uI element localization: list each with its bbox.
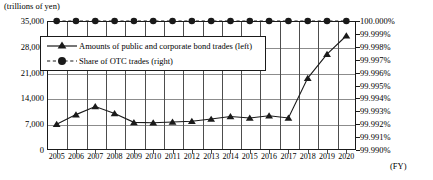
right-axis-tick-mark — [356, 60, 360, 61]
left-axis-tick-label: 35,000 — [21, 17, 44, 26]
chart-legend: Amounts of public and corporate bond tra… — [40, 36, 266, 71]
gridline-horizontal — [48, 99, 355, 100]
left-axis-tick-label: 14,000 — [21, 94, 44, 103]
right-axis-tick-mark — [356, 150, 360, 151]
legend-label-bond-trades: Amounts of public and corporate bond tra… — [79, 41, 252, 51]
gridline-horizontal — [48, 74, 355, 75]
x-axis-tick-mark — [173, 150, 174, 154]
x-axis-tick-mark — [230, 150, 231, 154]
x-axis-tick-mark — [308, 150, 309, 154]
legend-label-otc-share: Share of OTC trades (right) — [79, 56, 173, 66]
chart-container: (trillions of yen) 07,00014,00021,00028,… — [0, 0, 433, 180]
right-axis-tick-mark — [356, 124, 360, 125]
x-axis-tick-mark — [134, 150, 135, 154]
x-axis-label: (FY) — [390, 162, 407, 171]
right-axis-tick-label: 100.000% — [360, 17, 395, 26]
x-axis-tick-mark — [192, 150, 193, 154]
x-axis-tick-mark — [115, 150, 116, 154]
x-axis-tick-mark — [269, 150, 270, 154]
right-axis-tick-mark — [356, 47, 360, 48]
legend-marker-triangle-icon — [45, 39, 79, 53]
left-axis-tick-label: 7,000 — [25, 120, 44, 129]
right-axis-tick-mark — [356, 73, 360, 74]
gridline-vertical — [299, 22, 300, 149]
legend-item-bond-trades: Amounts of public and corporate bond tra… — [45, 38, 261, 53]
right-axis-tick-mark — [356, 98, 360, 99]
right-axis-tick-label: 99.996% — [360, 68, 390, 77]
gridline-vertical — [338, 22, 339, 149]
x-axis-tick-mark — [57, 150, 58, 154]
x-axis-tick-mark — [76, 150, 77, 154]
right-axis-tick-mark — [356, 111, 360, 112]
right-axis-tick-label: 99.993% — [360, 107, 390, 116]
legend-marker-circle-icon — [45, 54, 79, 68]
x-axis-tick-mark — [211, 150, 212, 154]
x-axis-tick-mark — [327, 150, 328, 154]
right-axis-tick-mark — [356, 21, 360, 22]
gridline-vertical — [280, 22, 281, 149]
gridline-horizontal — [48, 125, 355, 126]
right-axis-tick-label: 99.998% — [360, 42, 390, 51]
x-axis-tick-mark — [346, 150, 347, 154]
right-axis-tick-label: 99.990% — [360, 146, 390, 155]
right-axis-tick-label: 99.992% — [360, 120, 390, 129]
x-axis-tick-mark — [250, 150, 251, 154]
right-axis-tick-label: 99.991% — [360, 133, 390, 142]
x-axis-tick-mark — [153, 150, 154, 154]
right-axis-tick-label: 99.999% — [360, 29, 390, 38]
right-axis-tick-label: 99.995% — [360, 81, 390, 90]
right-axis-tick-mark — [356, 137, 360, 138]
right-axis-tick-label: 99.994% — [360, 94, 390, 103]
legend-item-otc-share: Share of OTC trades (right) — [45, 53, 261, 68]
right-axis-tick-label: 99.997% — [360, 55, 390, 64]
left-axis-unit-label: (trillions of yen) — [4, 1, 60, 11]
right-axis-tick-mark — [356, 34, 360, 35]
x-axis-tick-mark — [288, 150, 289, 154]
gridline-vertical — [318, 22, 319, 149]
x-axis-tick-mark — [95, 150, 96, 154]
right-axis-tick-mark — [356, 86, 360, 87]
